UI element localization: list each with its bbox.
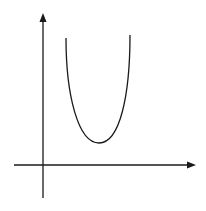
- graph-canvas: [0, 0, 206, 211]
- y-axis: [40, 13, 47, 198]
- x-axis-arrow-icon: [187, 162, 196, 169]
- y-axis-arrow-icon: [40, 13, 47, 22]
- parabola-curve: [66, 35, 130, 143]
- x-axis: [14, 162, 196, 169]
